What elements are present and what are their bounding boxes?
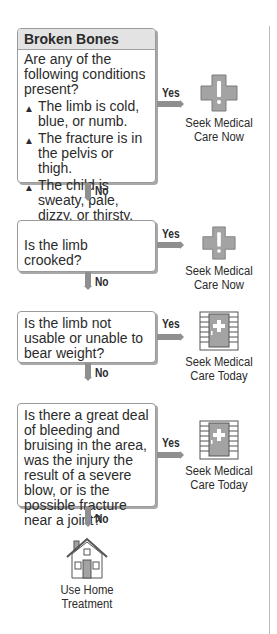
question-text: Are any of the following conditions pres… (18, 50, 155, 99)
clinic-door-icon (199, 420, 239, 460)
question-text: Is the limb not usable or unable to bear… (18, 312, 155, 363)
triangle-bullet-icon: ▲ (24, 133, 34, 148)
house-icon (65, 537, 109, 579)
triangle-bullet-icon: ▲ (24, 101, 34, 116)
condition-item: ▲The fracture is in the pelvis or thigh. (24, 131, 149, 176)
condition-item: ▲The limb is cold, blue, or numb. (24, 99, 149, 129)
medical-cross-icon (200, 74, 238, 112)
no-arrow (85, 363, 91, 377)
outcome-seek-care-now: Seek Medical Care Now (174, 226, 264, 292)
flowchart-title: Broken Bones (18, 29, 155, 50)
no-label: No (95, 184, 109, 198)
condition-list: ▲The limb is cold, blue, or numb. ▲The f… (18, 99, 155, 229)
outcome-seek-care-today: Seek Medical Care Today (174, 420, 264, 492)
outcome-seek-care-today: Seek Medical Care Today (174, 311, 264, 383)
clinic-door-icon (199, 311, 239, 351)
medical-cross-icon (200, 226, 238, 260)
outcome-home-treatment: Use Home Treatment (42, 537, 132, 611)
no-label: No (95, 275, 109, 289)
outcome-seek-care-now: Seek Medical Care Now (174, 74, 264, 144)
no-arrow (85, 272, 91, 286)
no-label: No (95, 512, 109, 526)
question-box-2: Is the limb crooked? (17, 220, 156, 272)
no-label: No (95, 366, 109, 380)
page-divider (269, 26, 270, 634)
question-box-4: Is there a great deal of bleeding and br… (17, 403, 156, 507)
question-box-3: Is the limb not usable or unable to bear… (17, 311, 156, 363)
question-text: Is the limb crooked? (18, 221, 155, 270)
triangle-bullet-icon: ▲ (24, 180, 34, 195)
no-arrow (85, 507, 91, 523)
no-arrow (85, 183, 91, 197)
question-box-1: Broken Bones Are any of the following co… (17, 28, 156, 183)
